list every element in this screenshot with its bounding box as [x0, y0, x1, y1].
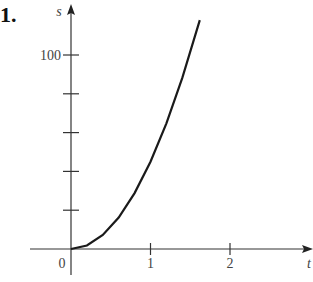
chart: 012100st: [0, 0, 313, 282]
y-tick-label: 100: [40, 48, 61, 63]
x-tick-label: 1: [147, 256, 154, 271]
data-curve: [71, 20, 200, 249]
axes: 012100st: [30, 4, 313, 275]
x-axis-label: t: [307, 256, 312, 271]
x-tick-label: 0: [59, 256, 66, 271]
x-tick-label: 2: [227, 256, 234, 271]
y-axis-label: s: [56, 4, 62, 19]
